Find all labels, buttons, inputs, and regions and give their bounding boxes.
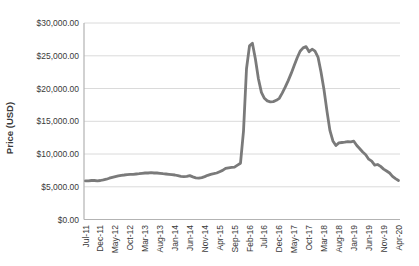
x-axis-tick-label: Aug-13 <box>155 225 165 253</box>
y-axis-tick-label: $0.00 <box>58 215 80 225</box>
x-axis-tick-label: Aug-18 <box>334 225 344 253</box>
x-axis-tick-label: Mar-13 <box>140 225 150 252</box>
price-chart: $0.00$5,000.00$10,000.00$15,000.00$20,00… <box>0 0 419 266</box>
x-axis-tick-label: Jun-19 <box>364 225 374 251</box>
x-axis-tick-label: Dec-16 <box>274 225 284 253</box>
x-axis-tick-label: Apr-20 <box>394 225 404 251</box>
x-axis-tick-label: Mar-18 <box>319 225 329 252</box>
y-axis-tick-label: $30,000.00 <box>36 18 79 28</box>
x-axis-tick-label: May-17 <box>289 225 299 254</box>
x-axis-tick-label: Nov-19 <box>379 225 389 253</box>
y-axis-tick-label: $15,000.00 <box>36 116 79 126</box>
y-axis-title: Price (USD) <box>4 102 15 154</box>
x-axis-tick-label: Jul-11 <box>81 225 91 248</box>
price-line <box>86 43 399 181</box>
x-axis-tick-label: May-12 <box>110 225 120 254</box>
x-axis-tick-label: Feb-16 <box>245 225 255 252</box>
x-axis-tick-label: Jul-16 <box>259 225 269 248</box>
x-axis-tick-label: Oct-12 <box>125 225 135 251</box>
y-axis-tick-label: $5,000.00 <box>41 182 79 192</box>
price-chart-canvas: $0.00$5,000.00$10,000.00$15,000.00$20,00… <box>0 0 419 266</box>
x-axis-tick-label: Jan-19 <box>349 225 359 251</box>
y-axis-tick-label: $25,000.00 <box>36 51 79 61</box>
x-axis-tick-label: Nov-14 <box>200 225 210 253</box>
y-axis-tick-label: $10,000.00 <box>36 149 79 159</box>
x-axis-tick-label: Dec-11 <box>95 225 105 252</box>
x-axis-tick-label: Jan-14 <box>170 225 180 251</box>
x-axis-tick-label: Oct-17 <box>304 225 314 251</box>
y-axis-tick-label: $20,000.00 <box>36 84 79 94</box>
x-axis-tick-label: Jun-14 <box>185 225 195 251</box>
x-axis-tick-label: Sep-15 <box>230 225 240 253</box>
x-axis-tick-label: Apr-15 <box>215 225 225 251</box>
